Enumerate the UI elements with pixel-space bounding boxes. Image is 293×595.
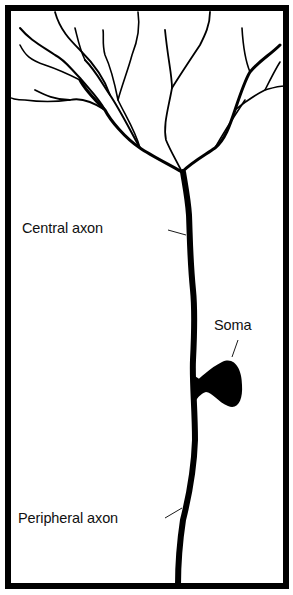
frame-border [8,8,286,586]
label-soma: Soma [214,317,251,333]
neuron-diagram [0,0,293,595]
peripheral-axon-leader [165,508,182,518]
central-axon-leader [168,230,186,235]
label-peripheral-axon: Peripheral axon [18,510,118,526]
soma-leader [232,340,238,357]
dendrites [8,12,285,172]
label-central-axon: Central axon [22,220,103,236]
